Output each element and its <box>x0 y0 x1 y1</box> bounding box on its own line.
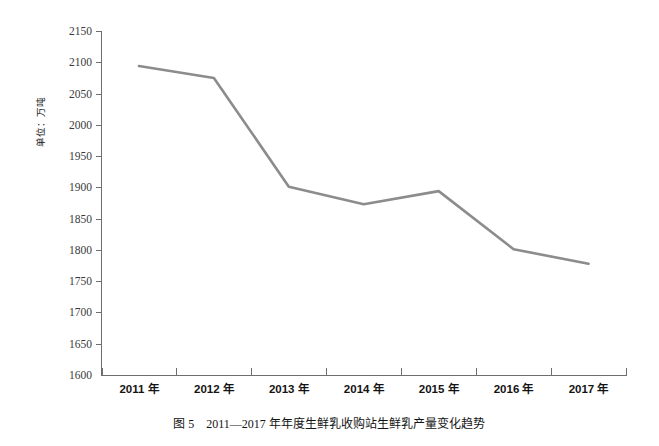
x-axis-tick-label: 2012 年 <box>194 382 235 395</box>
y-axis-tick-label: 2050 <box>69 88 92 100</box>
x-axis-tick-label: 2015 年 <box>419 382 460 395</box>
y-axis-tick-label: 1850 <box>69 213 92 225</box>
x-axis-tick-label: 2014 年 <box>344 382 385 395</box>
x-axis-tick-label: 2017 年 <box>569 382 610 395</box>
line-chart: 1600165017001750180018501900195020002050… <box>0 0 659 446</box>
y-axis-tick-label: 1650 <box>69 338 92 350</box>
y-axis-title: 单位：万吨 <box>35 97 46 147</box>
y-axis-tick-label: 1700 <box>69 306 92 318</box>
y-axis-tick-label: 1950 <box>69 150 92 162</box>
y-axis-tick-label: 2100 <box>69 56 92 68</box>
y-axis-tick-label: 1800 <box>69 244 92 256</box>
y-axis-tick-label: 1750 <box>69 275 92 287</box>
y-axis-tick-label: 2150 <box>69 25 92 37</box>
x-axis-tick-marks <box>103 368 627 376</box>
y-axis-tick-labels: 1600165017001750180018501900195020002050… <box>69 25 92 381</box>
y-axis-tick-label: 2000 <box>69 119 92 131</box>
x-axis-tick-labels: 2011 年2012 年2013 年2014 年2015 年2016 年2017… <box>119 382 609 395</box>
figure-container: 1600165017001750180018501900195020002050… <box>0 0 659 446</box>
y-axis-tick-label: 1900 <box>69 181 92 193</box>
y-axis-tick-marks <box>96 32 102 345</box>
figure-caption: 图 5 2011—2017 年年度生鲜乳收购站生鲜乳产量变化趋势 <box>173 416 485 431</box>
x-axis-tick-label: 2011 年 <box>119 382 159 395</box>
y-axis-tick-label: 1600 <box>69 369 92 381</box>
x-axis-tick-label: 2013 年 <box>269 382 310 395</box>
series-line-fresh-milk-output <box>139 66 589 264</box>
x-axis-tick-label: 2016 年 <box>494 382 535 395</box>
